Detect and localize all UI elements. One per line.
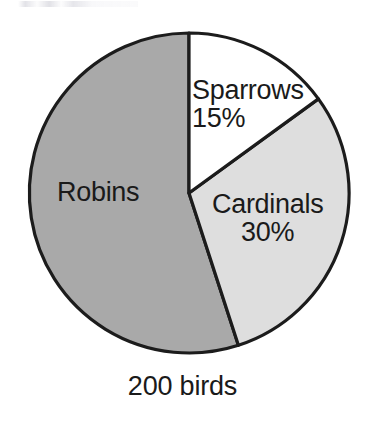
- pie-label-cardinals-name: Cardinals: [212, 190, 323, 218]
- pie-label-cardinals-percent: 30%: [212, 218, 323, 246]
- pie-chart-figure: Sparrows 15% Cardinals 30% Robins 200 bi…: [0, 0, 365, 421]
- chart-caption: 200 birds: [0, 371, 365, 402]
- pie-label-sparrows-name: Sparrows: [192, 76, 304, 104]
- pie-label-robins-name: Robins: [57, 178, 139, 206]
- pie-label-sparrows-percent: 15%: [192, 104, 304, 132]
- pie-label-robins: Robins: [57, 178, 139, 206]
- pie-label-cardinals: Cardinals 30%: [212, 190, 323, 246]
- pie-label-sparrows: Sparrows 15%: [192, 76, 304, 132]
